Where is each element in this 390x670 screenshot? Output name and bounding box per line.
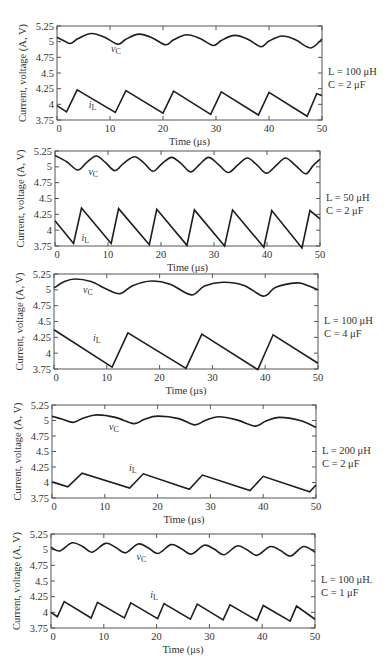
x-tick-label: 50 xyxy=(315,249,326,260)
series-vC-line xyxy=(54,279,318,296)
y-tick-label: 4.5 xyxy=(39,193,52,204)
y-tick-label: 5 xyxy=(44,415,49,426)
x-axis-label: Time (μs) xyxy=(165,385,207,397)
y-tick-label: 4.75 xyxy=(31,431,49,442)
x-axis-label: Time (μs) xyxy=(163,514,205,526)
x-tick-label: 20 xyxy=(152,501,163,512)
y-tick-label: 5 xyxy=(47,161,52,172)
capacitance-annotation: C = 2 μF xyxy=(328,79,366,90)
inductance-annotation: L = 50 μH xyxy=(326,192,370,203)
y-tick-label: 5 xyxy=(49,36,54,47)
series-vC-label: vC xyxy=(88,166,98,179)
y-tick-label: 4.25 xyxy=(31,462,49,473)
y-tick-label: 4 xyxy=(44,477,50,488)
x-tick-label: 30 xyxy=(205,501,216,512)
x-tick-label: 0 xyxy=(54,249,59,260)
y-axis-label: Current, voltage (A, V) xyxy=(15,149,27,248)
x-tick-label: 10 xyxy=(100,501,111,512)
x-tick-label: 40 xyxy=(262,249,273,260)
x-tick-label: 50 xyxy=(311,501,322,512)
x-axis-label: Time (μs) xyxy=(169,136,211,148)
plot-frame xyxy=(57,26,322,120)
series-vC-label: vC xyxy=(109,421,119,434)
series-iL-label: iL xyxy=(93,332,101,345)
inductance-annotation: L = 100 μH xyxy=(324,315,373,326)
series-iL-line xyxy=(55,208,320,248)
x-tick-label: 50 xyxy=(310,631,321,642)
x-axis-label: Time (μs) xyxy=(167,262,209,274)
y-tick-label: 4.5 xyxy=(41,68,54,79)
y-tick-label: 4.5 xyxy=(38,316,51,327)
x-tick-label: 30 xyxy=(209,249,220,260)
y-tick-label: 4.75 xyxy=(30,560,48,571)
series-vC-label: vC xyxy=(137,551,147,564)
x-tick-label: 20 xyxy=(151,631,162,642)
figure-canvas: 3.7544.254.54.7555.2501020304050Time (μs… xyxy=(0,0,390,670)
y-tick-label: 4.75 xyxy=(33,300,51,311)
series-vC-line xyxy=(57,34,322,48)
chart-panel-3: 3.7544.254.54.7555.2501020304050Time (μs… xyxy=(14,269,373,398)
capacitance-annotation: C = 2 μF xyxy=(322,458,360,469)
y-axis-label: Current, voltage (A, V) xyxy=(12,402,24,501)
plot-frame xyxy=(55,151,320,246)
x-tick-label: 40 xyxy=(257,631,268,642)
x-tick-label: 0 xyxy=(53,372,58,383)
x-tick-label: 30 xyxy=(207,372,218,383)
series-vC-line xyxy=(51,543,315,556)
inductance-annotation: L = 100 μH xyxy=(328,66,377,77)
x-tick-label: 0 xyxy=(56,123,61,134)
y-tick-label: 3.75 xyxy=(31,493,49,504)
series-iL-label: iL xyxy=(129,462,137,475)
y-tick-label: 4.5 xyxy=(35,576,48,587)
x-tick-label: 10 xyxy=(99,631,110,642)
y-tick-label: 4.75 xyxy=(34,177,52,188)
inductance-annotation: L = 200 μH xyxy=(322,445,371,456)
y-axis-label: Current, voltage (A, V) xyxy=(11,531,23,630)
y-tick-label: 3.75 xyxy=(30,623,48,634)
y-tick-label: 5.25 xyxy=(30,529,48,540)
chart-panel-1: 3.7544.254.54.7555.2501020304050Time (μs… xyxy=(17,21,377,149)
y-tick-label: 3.75 xyxy=(34,241,52,252)
y-axis-label: Current, voltage (A, V) xyxy=(14,272,26,371)
y-tick-label: 4.25 xyxy=(34,209,52,220)
x-tick-label: 10 xyxy=(105,123,116,134)
x-tick-label: 0 xyxy=(51,501,56,512)
capacitance-annotation: C = 2 μF xyxy=(326,205,364,216)
chart-panel-5: 3.7544.254.54.7555.2501020304050Time (μs… xyxy=(11,529,372,657)
y-tick-label: 4.75 xyxy=(36,52,54,63)
x-tick-label: 20 xyxy=(158,123,169,134)
x-tick-label: 0 xyxy=(50,631,55,642)
series-vC-line xyxy=(52,415,316,427)
series-iL-label: iL xyxy=(150,589,158,602)
series-iL-line xyxy=(57,90,322,116)
series-iL-label: iL xyxy=(82,232,90,245)
y-tick-label: 4.25 xyxy=(36,83,54,94)
y-tick-label: 5 xyxy=(43,544,48,555)
y-tick-label: 5 xyxy=(46,284,51,295)
x-tick-label: 20 xyxy=(154,372,165,383)
series-vC-label: vC xyxy=(111,43,121,56)
series-iL-line xyxy=(52,473,316,492)
chart-panel-2: 3.7544.254.54.7555.2501020304050Time (μs… xyxy=(15,146,370,275)
inductance-annotation: L = 100 μH. xyxy=(321,574,372,585)
y-tick-label: 3.75 xyxy=(36,115,54,126)
x-axis-label: Time (μs) xyxy=(162,644,204,656)
capacitance-annotation: C = 4 μF xyxy=(324,328,362,339)
x-tick-label: 40 xyxy=(258,501,269,512)
y-tick-label: 4.5 xyxy=(36,446,49,457)
x-tick-label: 30 xyxy=(204,631,215,642)
y-tick-label: 4.25 xyxy=(30,591,48,602)
y-tick-label: 4 xyxy=(47,225,53,236)
x-tick-label: 10 xyxy=(103,249,114,260)
y-tick-label: 5.25 xyxy=(34,146,52,157)
x-tick-label: 40 xyxy=(260,372,271,383)
x-tick-label: 50 xyxy=(317,123,328,134)
series-iL-line xyxy=(51,602,315,621)
x-tick-label: 10 xyxy=(102,372,113,383)
series-vC-label: vC xyxy=(83,284,93,297)
capacitance-annotation: C = 1 μF xyxy=(321,587,359,598)
y-tick-label: 5.25 xyxy=(33,269,51,280)
y-axis-label: Current, voltage (A, V) xyxy=(17,23,29,122)
y-tick-label: 4.25 xyxy=(33,332,51,343)
y-tick-label: 4 xyxy=(49,99,55,110)
